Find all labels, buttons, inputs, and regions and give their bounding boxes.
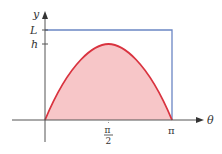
h-label: h [31,38,38,51]
L-label: L [29,24,37,37]
x-axis-arrow-icon [196,117,204,123]
y-axis-label: y [32,8,40,21]
pi-half-denominator: 2 [106,136,112,146]
y-axis-arrow-icon [42,11,48,19]
pi-label: π [168,125,175,136]
x-axis-label: θ [207,114,214,127]
chart: y L h θ π 2 π [0,0,222,154]
pi-half-numerator: π [105,125,111,135]
